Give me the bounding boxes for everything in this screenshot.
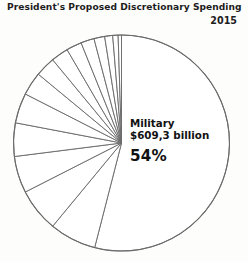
military-callout: Military $609,3 billion 54% (130, 117, 209, 166)
page-title: President's Proposed Discretionary Spend… (7, 2, 243, 12)
chart-page: President's Proposed Discretionary Spend… (0, 0, 248, 262)
callout-percent-label: 54% (130, 148, 209, 166)
callout-category-label: Military (130, 117, 209, 129)
chart-year-label: 2015 (7, 15, 237, 26)
pie-chart (0, 0, 248, 262)
callout-amount-label: $609,3 billion (130, 129, 209, 141)
